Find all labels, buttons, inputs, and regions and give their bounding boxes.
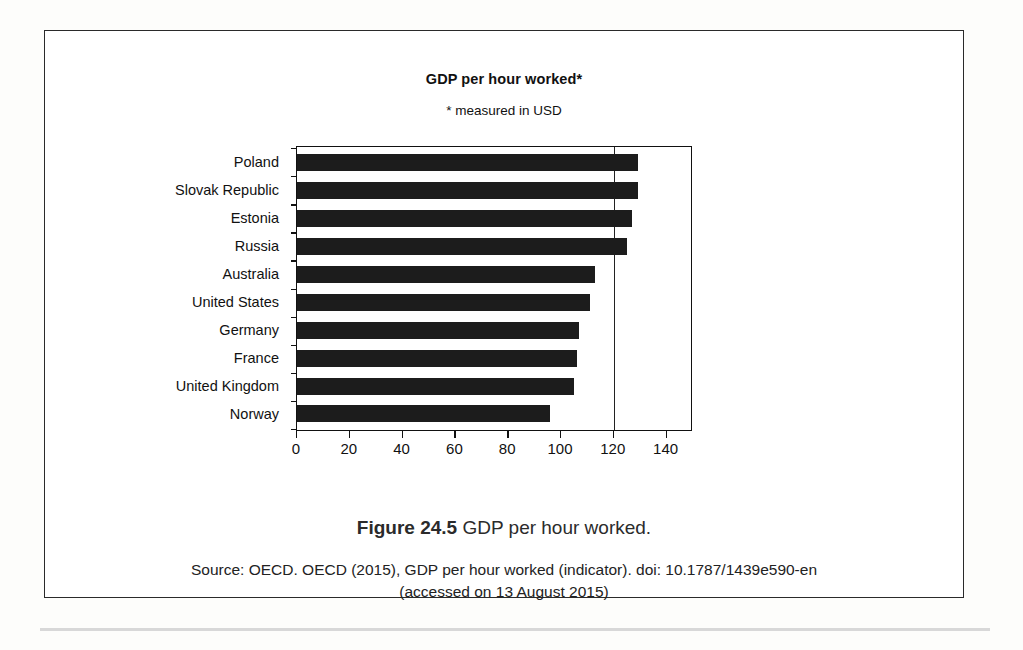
bar-row (297, 238, 691, 255)
y-axis-tick (291, 204, 297, 205)
y-axis-tick (291, 317, 297, 318)
y-axis-tick (291, 345, 297, 346)
x-axis-tick (296, 431, 297, 438)
x-axis-tick-label: 40 (393, 440, 410, 457)
page-bottom-rule (40, 628, 990, 631)
x-axis-tick-label: 20 (340, 440, 357, 457)
y-axis-ticks (296, 146, 297, 431)
x-axis-tick (402, 431, 403, 438)
bar (297, 378, 574, 395)
y-axis-tick (291, 289, 297, 290)
bar-row (297, 405, 691, 422)
figure-source: Source: OECD. OECD (2015), GDP per hour … (105, 559, 903, 604)
figure-caption-label: Figure 24.5 (357, 517, 457, 538)
y-axis-tick (291, 260, 297, 261)
y-axis-label: United States (43, 294, 288, 311)
y-axis-category-labels: PolandSlovak RepublicEstoniaRussiaAustra… (43, 146, 288, 431)
y-axis-label: France (43, 350, 288, 367)
x-axis: 020406080100120140 (296, 431, 692, 461)
x-axis-tick-label: 100 (547, 440, 572, 457)
bar (297, 238, 627, 255)
x-axis-tick-label: 120 (600, 440, 625, 457)
figure-border-box: GDP per hour worked* * measured in USD P… (44, 30, 964, 598)
y-axis-label: Germany (43, 322, 288, 339)
x-axis-tick-label: 80 (499, 440, 516, 457)
bar (297, 350, 577, 367)
bar (297, 182, 638, 199)
bar-row (297, 182, 691, 199)
y-axis-tick (291, 373, 297, 374)
bar-row (297, 210, 691, 227)
y-axis-label: Poland (43, 154, 288, 171)
x-axis-tick (560, 431, 561, 438)
y-axis-label: Australia (43, 266, 288, 283)
bar-series (297, 147, 691, 430)
y-axis-tick (291, 232, 297, 233)
bar (297, 210, 632, 227)
bar (297, 405, 550, 422)
y-axis-label: Slovak Republic (43, 182, 288, 199)
bar-row (297, 350, 691, 367)
x-axis-tick-label: 0 (292, 440, 300, 457)
bar-row (297, 154, 691, 171)
figure-caption-text: GDP per hour worked. (462, 517, 651, 538)
x-axis-tick (349, 431, 350, 438)
y-axis-tick (291, 401, 297, 402)
y-axis-label: Estonia (43, 210, 288, 227)
chart-subtitle: * measured in USD (45, 103, 963, 118)
figure-source-line-1: Source: OECD. OECD (2015), GDP per hour … (105, 559, 903, 581)
figure-source-line-2: (accessed on 13 August 2015) (105, 581, 903, 603)
bar-row (297, 322, 691, 339)
x-axis-tick-label: 140 (653, 440, 678, 457)
y-axis-label: Norway (43, 406, 288, 423)
y-axis-label: United Kingdom (43, 378, 288, 395)
y-axis-tick (291, 176, 297, 177)
chart-title: GDP per hour worked* (45, 71, 963, 87)
x-axis-tick (666, 431, 667, 438)
x-axis-tick (507, 431, 508, 438)
chart-plot: PolandSlovak RepublicEstoniaRussiaAustra… (296, 146, 692, 454)
bar-row (297, 378, 691, 395)
x-axis-tick (613, 431, 614, 438)
page-background: GDP per hour worked* * measured in USD P… (0, 0, 1023, 650)
figure-caption: Figure 24.5 GDP per hour worked. (45, 517, 963, 539)
bar (297, 154, 638, 171)
x-axis-tick-label: 60 (446, 440, 463, 457)
bar (297, 266, 595, 283)
plot-area (296, 146, 692, 431)
y-axis-tick (291, 148, 297, 149)
y-axis-label: Russia (43, 238, 288, 255)
bar (297, 294, 590, 311)
bar (297, 322, 579, 339)
bar-row (297, 294, 691, 311)
x-axis-tick (454, 431, 455, 438)
bar-row (297, 266, 691, 283)
